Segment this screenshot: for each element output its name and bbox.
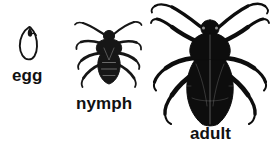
life-stage-label-nymph: nymph <box>76 94 132 114</box>
life-stage-label-egg: egg <box>12 66 43 86</box>
insect-adult-icon <box>146 0 274 130</box>
insect-life-stages-figure: egg <box>0 0 274 148</box>
life-stage-nymph: nymph <box>66 0 152 120</box>
life-stage-label-adult: adult <box>190 124 231 144</box>
insect-egg-icon <box>14 24 44 64</box>
life-stage-adult: adult <box>146 0 274 148</box>
life-stage-egg: egg <box>0 0 66 90</box>
insect-nymph-icon <box>70 12 148 92</box>
